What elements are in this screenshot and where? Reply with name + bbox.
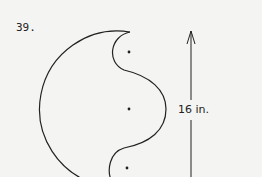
dimension-label: 16 in. <box>177 102 210 117</box>
top-center-dot <box>128 51 131 54</box>
middle-center-dot <box>128 108 131 111</box>
bottom-center-dot <box>126 167 129 170</box>
inner-profile <box>109 32 166 177</box>
figure-diagram <box>0 0 262 177</box>
outer-arc <box>40 31 130 177</box>
